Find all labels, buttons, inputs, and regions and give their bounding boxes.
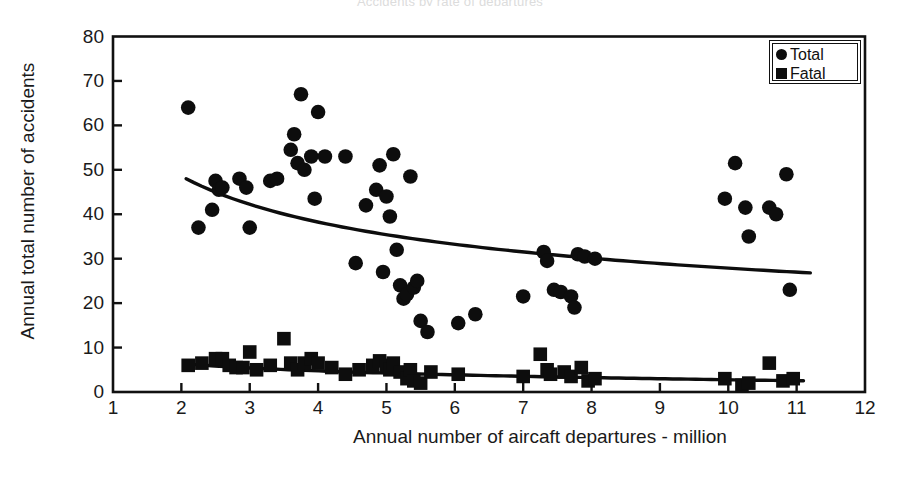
data-point-total — [468, 307, 483, 322]
data-point-fatal — [516, 370, 530, 384]
data-point-total — [420, 325, 435, 340]
legend-label-fatal: Fatal — [790, 66, 826, 82]
data-point-fatal — [250, 363, 264, 377]
legend-entry-total: Total — [776, 45, 854, 64]
axes-layer — [113, 37, 865, 393]
data-point-total — [738, 200, 753, 215]
data-point-total — [516, 289, 531, 304]
data-point-total — [410, 274, 425, 289]
data-point-fatal — [236, 361, 250, 375]
data-point-total — [348, 256, 363, 271]
data-point-total — [338, 149, 353, 164]
data-point-total — [376, 265, 391, 280]
data-point-total — [779, 167, 794, 182]
data-point-total — [287, 127, 302, 142]
legend-entry-fatal: Fatal — [776, 64, 854, 83]
data-point-total — [270, 171, 285, 186]
data-point-total — [297, 163, 312, 178]
data-point-total — [783, 282, 798, 297]
data-point-total — [540, 254, 555, 269]
data-point-fatal — [742, 376, 756, 390]
data-point-total — [379, 189, 394, 204]
data-point-total — [403, 169, 418, 184]
data-point-total — [294, 87, 309, 102]
data-point-total — [311, 105, 326, 120]
legend-box: Total Fatal — [769, 40, 861, 84]
data-point-total — [359, 198, 374, 213]
data-point-fatal — [325, 361, 339, 375]
data-point-fatal — [424, 365, 438, 379]
data-point-total — [451, 316, 466, 331]
legend-inner-frame: Total Fatal — [772, 43, 858, 81]
data-point-total — [318, 149, 333, 164]
data-point-total — [386, 147, 401, 162]
circle-marker-icon — [776, 49, 787, 60]
data-point-fatal — [574, 361, 588, 375]
data-point-fatal — [195, 356, 209, 370]
data-point-total — [191, 220, 206, 235]
data-point-total — [205, 203, 220, 218]
data-point-fatal — [588, 372, 602, 386]
data-point-total — [383, 209, 398, 224]
data-point-fatal — [263, 359, 277, 373]
data-point-total — [283, 143, 298, 158]
legend-label-total: Total — [790, 47, 824, 63]
data-point-fatal — [243, 345, 257, 359]
data-point-fatal — [786, 372, 800, 386]
data-points-layer — [181, 87, 800, 392]
square-marker-icon — [776, 68, 787, 79]
data-point-total — [769, 207, 784, 222]
data-point-fatal — [762, 356, 776, 370]
data-point-total — [588, 251, 603, 266]
data-point-total — [215, 180, 230, 195]
data-point-total — [181, 100, 196, 115]
plot-canvas — [0, 0, 900, 481]
data-point-fatal — [181, 359, 195, 373]
data-point-total — [372, 158, 387, 173]
data-point-total — [741, 229, 756, 244]
data-point-total — [242, 220, 257, 235]
data-point-fatal — [339, 367, 353, 381]
data-point-fatal — [352, 363, 366, 377]
data-point-fatal — [533, 347, 547, 361]
data-point-total — [304, 149, 319, 164]
figure-root: Accidents by rate of departures Annual t… — [0, 0, 900, 481]
data-point-fatal — [311, 356, 325, 370]
data-point-total — [239, 180, 254, 195]
data-point-total — [718, 191, 733, 206]
data-point-fatal — [544, 367, 558, 381]
data-point-fatal — [277, 332, 291, 346]
data-point-total — [728, 156, 743, 171]
data-point-total — [389, 243, 404, 258]
data-point-fatal — [451, 367, 465, 381]
data-point-fatal — [718, 372, 732, 386]
trendline-layer — [186, 179, 810, 381]
data-point-total — [307, 191, 322, 206]
data-point-total — [567, 300, 582, 315]
